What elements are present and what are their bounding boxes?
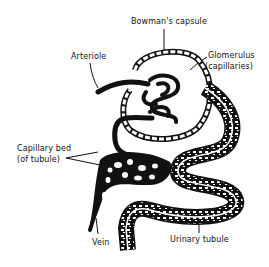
arteriole-shape	[98, 82, 148, 92]
label-capillary-bed-sub: (of tubule)	[17, 155, 60, 165]
nephron-diagram: Bowman's capsule Arteriole Glomerulus (c…	[0, 0, 269, 267]
label-capillary-bed: Capillary bed	[17, 144, 71, 154]
nephron-illustration	[0, 0, 269, 267]
label-glomerulus: Glomerulus	[208, 51, 255, 61]
label-bowmans-capsule: Bowman's capsule	[131, 17, 207, 27]
label-glomerulus-sub: (capillaries)	[205, 62, 253, 72]
label-vein: Vein	[92, 238, 109, 248]
label-arteriole: Arteriole	[71, 52, 106, 62]
label-urinary-tubule: Urinary tubule	[170, 235, 229, 245]
